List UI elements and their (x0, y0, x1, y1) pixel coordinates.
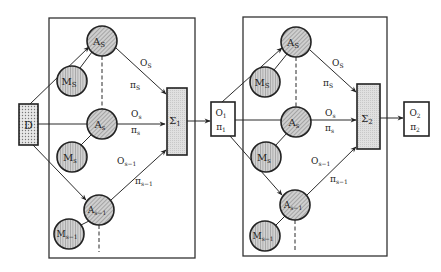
svg-text:πs−1: πs−1 (330, 174, 348, 185)
stage-1-agent-s-minus-1[interactable]: As−1 (84, 195, 114, 225)
svg-text:πs: πs (325, 123, 334, 134)
svg-text:Os: Os (325, 108, 335, 119)
svg-text:πs: πs (131, 125, 140, 136)
svg-text:πS: πS (323, 78, 333, 89)
aggregator-sigma-2[interactable]: Σ2 (357, 84, 380, 149)
svg-text:Os−1: Os−1 (117, 156, 136, 167)
svg-text:OS: OS (332, 58, 344, 69)
input-node-d[interactable]: D (19, 104, 38, 145)
stage-2-edge-labels: OS πS Os πs Os−1 πs−1 (311, 58, 348, 185)
stage-2-model-s-minus-1[interactable]: Ms−1 (250, 221, 280, 251)
stage-2-output-box[interactable]: O2 π2 (404, 102, 429, 136)
stage-2-agent-S[interactable]: AS (281, 27, 311, 57)
stage-1-model-s[interactable]: Ms (57, 142, 87, 172)
two-stage-aggregation-diagram: D AS MS As Ms As−1 Ms−1 OS πS Os πs Os−1… (0, 0, 441, 272)
stage-1-agent-s[interactable]: As (87, 109, 117, 139)
aggregator-sigma-1[interactable]: Σ1 (167, 88, 187, 155)
stage-2-model-S[interactable]: MS (250, 67, 280, 97)
svg-text:Os−1: Os−1 (311, 156, 330, 167)
svg-text:Os: Os (131, 109, 141, 120)
stage-1-agent-S[interactable]: AS (87, 26, 117, 56)
svg-text:πS: πS (130, 80, 140, 91)
stage-2-agent-s[interactable]: As (281, 107, 311, 137)
svg-text:πs−1: πs−1 (135, 176, 153, 187)
stage-2-agent-s-minus-1[interactable]: As−1 (280, 190, 310, 220)
input-node-label: D (24, 119, 33, 132)
svg-text:OS: OS (140, 58, 152, 69)
stage-1-output-box[interactable]: O1 π1 (211, 102, 235, 136)
stage-1-model-S[interactable]: MS (57, 66, 87, 96)
stage-2-model-s[interactable]: Ms (251, 142, 281, 172)
stage-1-model-s-minus-1[interactable]: Ms−1 (54, 219, 84, 249)
